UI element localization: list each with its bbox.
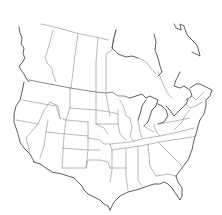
outline-map — [0, 0, 222, 215]
us-states — [14, 82, 212, 210]
us-canada-border — [29, 80, 130, 98]
canada-provinces — [19, 24, 200, 100]
